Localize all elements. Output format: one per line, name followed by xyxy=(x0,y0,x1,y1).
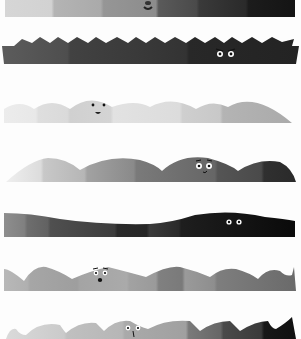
monster-strip-spiky xyxy=(0,37,301,67)
monster-strip-slope-wave xyxy=(0,211,301,239)
monster-strip-fin-wave xyxy=(0,317,301,339)
monster-strip-flat xyxy=(0,0,301,18)
wavy-shape xyxy=(0,265,301,293)
fin-wave-shape xyxy=(0,317,301,339)
monster-strip-big-hills xyxy=(0,156,301,184)
monster-strip-wavy xyxy=(0,265,301,293)
monster-strip-soft-hills xyxy=(0,97,301,125)
spiky-shape xyxy=(0,37,301,67)
big-hills-shape xyxy=(0,156,301,184)
slope-wave-shape xyxy=(0,211,301,239)
flat-bar-shape xyxy=(0,0,301,18)
soft-hills-shape xyxy=(0,97,301,125)
